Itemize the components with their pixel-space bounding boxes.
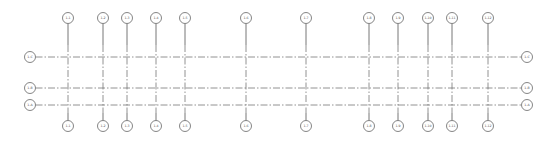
grid-bubble-label: 1-7 <box>303 124 308 128</box>
grid-bubble-top-1-5: 1-5 <box>180 13 191 24</box>
grid-bubble-label: 1-10 <box>424 124 431 128</box>
grid-bubble-right-1-a: 1-A <box>522 100 533 111</box>
grid-bubble-top-1-4: 1-4 <box>151 13 162 24</box>
grid-bubble-bottom-1-6: 1-6 <box>241 121 252 132</box>
grid-bubble-label: 1-C <box>524 55 530 59</box>
grid-bubble-label: 1-1 <box>65 16 70 20</box>
grid-bubble-bottom-1-1: 1-1 <box>63 121 74 132</box>
grid-bubble-top-1-1: 1-1 <box>63 13 74 24</box>
grid-bubble-label: 1-C <box>27 55 33 59</box>
grid-bubble-top-1-3: 1-3 <box>122 13 133 24</box>
grid-bubble-label: 1-A <box>27 103 33 107</box>
grid-bubble-label: 1-6 <box>243 16 248 20</box>
grid-bubble-label: 1-3 <box>124 16 129 20</box>
grid-bubble-label: 1-11 <box>448 124 455 128</box>
grid-plan-canvas: 1-C1-C1-B1-B1-A1-A1-11-11-21-21-31-31-41… <box>0 0 554 143</box>
grid-bubble-label: 1-2 <box>100 124 105 128</box>
grid-bubble-bottom-1-12: 1-12 <box>483 121 494 132</box>
grid-bubble-label: 1-12 <box>484 124 491 128</box>
grid-bubble-bottom-1-5: 1-5 <box>180 121 191 132</box>
grid-bubble-label: 1-4 <box>153 124 158 128</box>
grid-bubble-top-1-12: 1-12 <box>483 13 494 24</box>
grid-bubble-left-1-c: 1-C <box>25 52 36 63</box>
grid-bubble-label: 1-5 <box>182 16 187 20</box>
grid-plan-drawing: 1-C1-C1-B1-B1-A1-A1-11-11-21-21-31-31-41… <box>0 0 554 143</box>
grid-bubble-label: 1-10 <box>424 16 431 20</box>
grid-bubble-bottom-1-2: 1-2 <box>98 121 109 132</box>
grid-bubble-label: 1-8 <box>366 16 371 20</box>
grid-bubble-label: 1-1 <box>65 124 70 128</box>
grid-bubble-label: 1-6 <box>243 124 248 128</box>
grid-bubble-top-1-7: 1-7 <box>301 13 312 24</box>
grid-bubble-bottom-1-11: 1-11 <box>447 121 458 132</box>
grid-bubble-label: 1-9 <box>395 16 400 20</box>
grid-bubble-top-1-9: 1-9 <box>393 13 404 24</box>
grid-bubble-label: 1-9 <box>395 124 400 128</box>
grid-bubble-label: 1-5 <box>182 124 187 128</box>
grid-bubble-left-1-b: 1-B <box>25 83 36 94</box>
grid-bubble-right-1-b: 1-B <box>522 83 533 94</box>
grid-bubble-label: 1-12 <box>484 16 491 20</box>
grid-bubble-bottom-1-3: 1-3 <box>122 121 133 132</box>
grid-bubble-bottom-1-9: 1-9 <box>393 121 404 132</box>
grid-bubble-label: 1-4 <box>153 16 158 20</box>
grid-bubble-top-1-11: 1-11 <box>447 13 458 24</box>
grid-bubble-top-1-10: 1-10 <box>423 13 434 24</box>
grid-bubble-bottom-1-8: 1-8 <box>364 121 375 132</box>
grid-bubble-label: 1-B <box>27 86 32 90</box>
grid-bubble-bottom-1-4: 1-4 <box>151 121 162 132</box>
grid-bubble-label: 1-2 <box>100 16 105 20</box>
grid-bubble-label: 1-11 <box>448 16 455 20</box>
grid-bubble-label: 1-B <box>524 86 529 90</box>
grid-bubble-right-1-c: 1-C <box>522 52 533 63</box>
grid-bubble-bottom-1-10: 1-10 <box>423 121 434 132</box>
grid-bubble-label: 1-7 <box>303 16 308 20</box>
grid-bubble-top-1-2: 1-2 <box>98 13 109 24</box>
grid-bubble-left-1-a: 1-A <box>25 100 36 111</box>
grid-bubble-label: 1-8 <box>366 124 371 128</box>
grid-bubble-top-1-6: 1-6 <box>241 13 252 24</box>
grid-bubble-label: 1-A <box>524 103 530 107</box>
grid-bubble-label: 1-3 <box>124 124 129 128</box>
grid-bubble-bottom-1-7: 1-7 <box>301 121 312 132</box>
grid-bubble-top-1-8: 1-8 <box>364 13 375 24</box>
